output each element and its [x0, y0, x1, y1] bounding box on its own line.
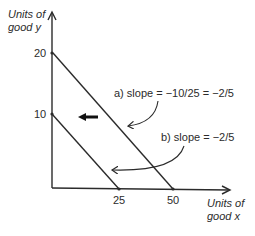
budget-line-chart: Units of good y 20 10 25 50 Units of goo… — [0, 0, 255, 236]
annotation-b-label: b) slope = −2/5 — [161, 131, 234, 143]
x-tick-25: 25 — [113, 194, 125, 206]
point-x25 — [117, 187, 120, 190]
y-axis-title-line1: Units of — [8, 8, 45, 21]
point-y20 — [50, 51, 53, 54]
y-axis-title-line2: good y — [8, 21, 45, 34]
y-axis-title: Units of good y — [8, 8, 45, 34]
y-tick-20: 20 — [34, 47, 46, 59]
annotation-a-pointer — [128, 101, 158, 126]
budget-line-b — [52, 114, 119, 189]
y-tick-10: 10 — [34, 108, 46, 120]
shift-arrow-left-icon — [78, 113, 86, 121]
x-axis-title-line1: Units of — [207, 197, 244, 210]
x-axis-title: Units of good x — [207, 197, 244, 223]
annotation-a-label: a) slope = −10/25 = −2/5 — [114, 87, 234, 99]
x-axis — [52, 188, 229, 190]
x-tick-50: 50 — [167, 194, 179, 206]
annotation-b-pointer — [112, 146, 184, 170]
point-y10 — [50, 112, 53, 115]
x-axis-title-line2: good x — [207, 210, 244, 223]
budget-line-a — [53, 53, 173, 189]
point-x50 — [171, 187, 174, 190]
